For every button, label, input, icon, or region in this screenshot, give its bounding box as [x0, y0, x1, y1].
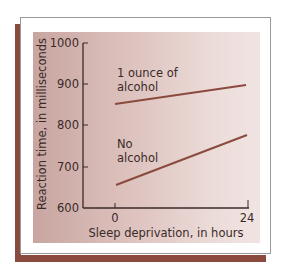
- y-tick-label: 900: [57, 77, 79, 91]
- x-tick-label: 24: [240, 211, 255, 225]
- y-tick-label: 1000: [50, 36, 79, 50]
- y-tick-labels: 1000 900 800 700 600: [50, 36, 79, 215]
- x-ticks: [115, 200, 248, 208]
- series-label-alcohol: 1 ounce of alcohol: [117, 66, 181, 94]
- y-axis-label: Reaction time, in milliseconds: [35, 38, 49, 210]
- series-label-no-alcohol: No alcohol: [117, 137, 158, 165]
- y-ticks: [83, 43, 88, 167]
- y-tick-label: 700: [57, 160, 79, 174]
- line-chart: Reaction time, in milliseconds 1000 900 …: [0, 0, 281, 275]
- y-tick-label: 600: [57, 201, 79, 215]
- x-axis-label: Sleep deprivation, in hours: [89, 226, 244, 240]
- x-tick-labels: 0 24: [111, 211, 254, 225]
- x-tick-label: 0: [111, 211, 118, 225]
- y-tick-label: 800: [57, 118, 79, 132]
